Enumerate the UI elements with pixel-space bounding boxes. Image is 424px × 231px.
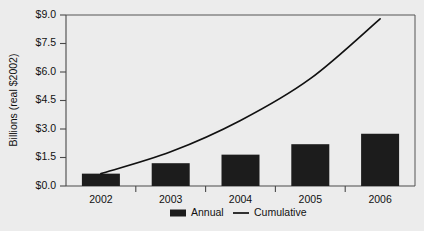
y-tick-label: $9.0 [36, 8, 57, 20]
y-tick-label: $3.0 [36, 122, 57, 134]
bar-annual-2004 [222, 155, 260, 186]
chart-container: $9.0 $7.5 $6.0 $4.5 $3.0 $1.5 $0.0 Billi… [0, 0, 424, 231]
y-tick-label: $4.5 [36, 93, 57, 105]
y-tick-label: $1.5 [36, 150, 57, 162]
legend-label-annual: Annual [191, 206, 224, 218]
bar-annual-2006 [361, 134, 399, 186]
x-tick-label: 2005 [299, 193, 323, 205]
x-tick-label: 2002 [89, 193, 113, 205]
y-tick-label: $6.0 [36, 65, 57, 77]
y-tick-label: $7.5 [36, 36, 57, 48]
bar-annual-2003 [152, 163, 190, 186]
combo-bar-line-chart: $9.0 $7.5 $6.0 $4.5 $3.0 $1.5 $0.0 Billi… [0, 0, 424, 231]
y-axis-title: Billions (real $2002) [7, 54, 19, 147]
bar-annual-2002 [82, 174, 120, 186]
chart-background [0, 0, 424, 231]
x-tick-label: 2003 [159, 193, 183, 205]
x-tick-label: 2006 [368, 193, 392, 205]
x-tick-label: 2004 [229, 193, 253, 205]
y-tick-label: $0.0 [36, 179, 57, 191]
bar-swatch-icon [170, 210, 186, 217]
bar-annual-2005 [291, 144, 329, 186]
legend-label-cumulative: Cumulative [254, 206, 307, 218]
